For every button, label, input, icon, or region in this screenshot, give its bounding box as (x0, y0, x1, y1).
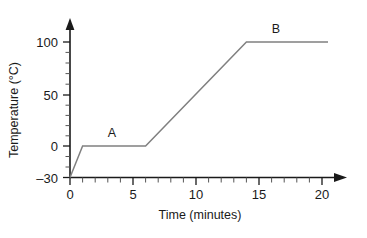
annotation-label-b: B (272, 22, 280, 36)
chart-page: 100 50 0 –30 0 5 10 15 20 Time (minutes)… (0, 0, 367, 238)
y-tick-label-50: 50 (44, 88, 58, 103)
x-tick-label-0: 0 (66, 187, 73, 202)
y-axis-title: Temperature (°C) (7, 62, 21, 158)
x-tick-label-5: 5 (129, 187, 136, 202)
y-axis-arrow-icon (66, 18, 75, 30)
annotation-label-a: A (108, 126, 117, 140)
x-axis-arrow-icon (334, 173, 347, 182)
y-tick-label-100: 100 (36, 35, 58, 50)
y-major-ticks (63, 42, 70, 178)
temperature-time-chart: 100 50 0 –30 0 5 10 15 20 Time (minutes)… (0, 0, 367, 238)
x-tick-label-20: 20 (315, 187, 329, 202)
y-tick-label-neg30: –30 (36, 171, 58, 186)
x-tick-label-10: 10 (189, 187, 203, 202)
x-axis-title: Time (minutes) (159, 208, 242, 222)
y-tick-label-0: 0 (51, 139, 58, 154)
heating-curve-line (70, 42, 328, 178)
x-tick-label-15: 15 (252, 187, 266, 202)
